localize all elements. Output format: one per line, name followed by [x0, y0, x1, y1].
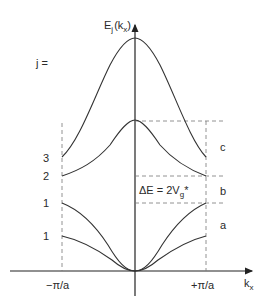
band-3-curve [62, 38, 206, 157]
x-tick-left: −π/a [46, 279, 70, 291]
band-1-upper-curve [62, 203, 206, 271]
band-index-2: 2 [43, 170, 49, 182]
region-label-a: a [220, 219, 227, 231]
band-index-1-upper: 1 [43, 197, 49, 209]
band-index-1-lower: 1 [43, 230, 49, 242]
band-structure-diagram: Ej(kx) kx −π/a +π/a j = 3 2 1 1 c b a ΔE… [0, 0, 268, 307]
x-axis-label: kx [244, 277, 254, 292]
band-2-curve [62, 120, 206, 176]
region-label-c: c [220, 141, 226, 153]
band-index-3: 3 [43, 152, 49, 164]
x-tick-right: +π/a [191, 279, 215, 291]
gap-annotation: ΔE = 2Vg* [139, 184, 189, 199]
region-label-b: b [220, 185, 226, 197]
y-axis-label: Ej(kx) [104, 19, 131, 34]
band-1-lower-curve [62, 236, 206, 271]
j-label: j = [35, 57, 48, 69]
